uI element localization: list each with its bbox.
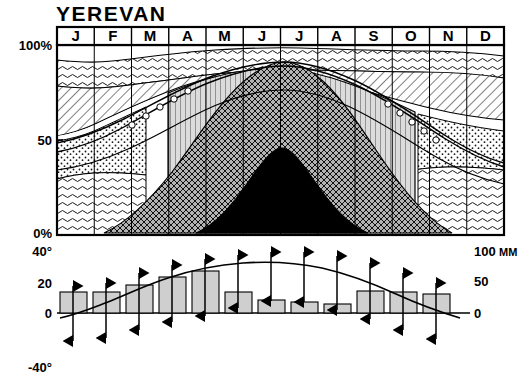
cloud-cover-panel: J F M A M J J A S O N D 100% 50 0% [19,27,504,241]
month-label-sep: S [369,27,379,44]
month-label-jun: J [258,27,266,44]
chart-svg: J F M A M J J A S O N D 100% 50 0% [0,0,525,375]
precip-bar-aug [291,302,318,313]
month-label-oct: O [405,27,417,44]
month-label-nov: N [443,27,454,44]
cloud-y-label-50: 50 [38,133,52,148]
cloud-y-labels: 100% 50 0% [19,38,53,241]
month-label-may: M [218,27,231,44]
temp-label-20: 20 [38,276,52,291]
month-label-apr: A [182,27,193,44]
temp-label-0: 0 [45,306,52,321]
climate-chart-figure: YEREVAN [0,0,525,375]
temp-label-minus40: -40° [28,360,52,375]
precip-axis-labels: 100 50 0 MM [474,244,517,321]
precip-unit-label: MM [499,246,517,258]
temperature-precipitation-panel: 40° 20 0 -40° 100 50 0 MM [28,244,517,375]
temp-axis-labels: 40° 20 0 -40° [28,244,52,375]
cloud-y-label-0: 0% [33,226,52,241]
precip-bar-jul [258,300,285,313]
month-label-feb: F [108,27,117,44]
precip-label-100: 100 [474,244,496,259]
precip-label-0: 0 [474,306,481,321]
month-label-jan: J [71,27,79,44]
month-label-dec: D [480,27,491,44]
month-label-mar: M [144,27,157,44]
month-label-aug: A [331,27,342,44]
precip-label-50: 50 [474,274,488,289]
month-label-jul: J [295,27,303,44]
cloud-y-label-100: 100% [19,38,53,53]
temp-label-40: 40° [32,244,52,259]
